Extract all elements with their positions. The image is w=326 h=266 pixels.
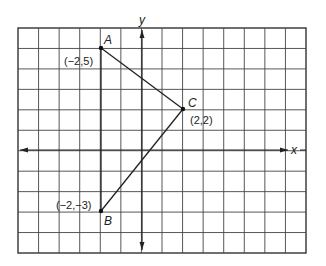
point-a-dot <box>99 46 103 50</box>
point-a-name: A <box>103 33 112 47</box>
coordinate-diagram: x y A (−2,5) C (2,2) B (−2,−3) <box>0 0 326 266</box>
point-b-name: B <box>104 214 112 228</box>
point-b-coords: (−2,−3) <box>56 199 91 211</box>
x-axis-left-arrow-icon <box>20 148 28 153</box>
point-a-coords: (−2,5) <box>64 55 93 67</box>
y-axis-up-arrow-icon <box>140 30 145 38</box>
grid <box>18 28 306 253</box>
y-axis-down-arrow-icon <box>140 242 145 250</box>
point-c-coords: (2,2) <box>190 114 213 126</box>
point-b-dot <box>99 209 103 213</box>
x-axis-right-arrow-icon <box>280 148 288 153</box>
point-c-name: C <box>188 96 197 110</box>
point-c-dot <box>181 107 185 111</box>
y-axis-label: y <box>138 13 146 27</box>
x-axis-label: x <box>290 143 298 157</box>
